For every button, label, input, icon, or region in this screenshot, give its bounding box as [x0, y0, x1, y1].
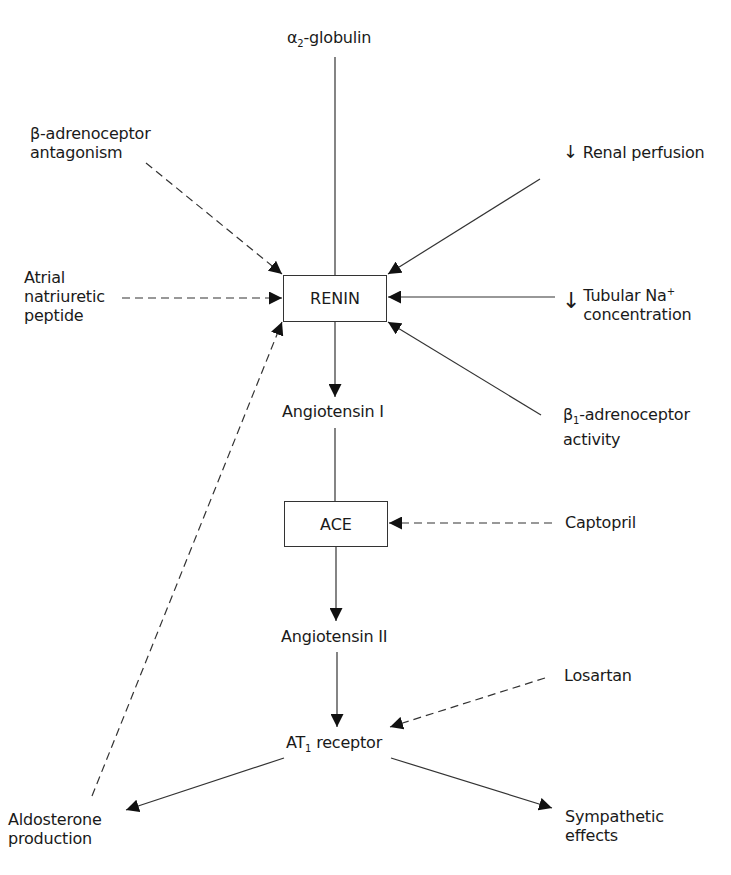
node-text: -globulin	[304, 28, 372, 47]
superscript: +	[667, 286, 675, 297]
beta-symbol: β	[563, 405, 573, 424]
node-text: RENIN	[310, 289, 360, 308]
node-atrial-natriuretic-peptide: Atrial natriuretic peptide	[24, 268, 105, 325]
edge-aldosterone-renin	[92, 322, 282, 796]
node-line: antagonism	[30, 143, 151, 162]
node-losartan: Losartan	[564, 666, 632, 685]
edge-renal-perfusion-renin	[388, 179, 540, 274]
node-text: Renal perfusion	[583, 143, 705, 162]
node-aldosterone-production: Aldosterone production	[8, 810, 102, 848]
node-text: Angiotensin II	[281, 627, 387, 646]
edge-beta1-renin	[388, 322, 541, 415]
node-line: β-adrenoceptor	[30, 124, 151, 143]
node-line: natriuretic	[24, 287, 105, 306]
down-arrow-icon: ↓	[563, 141, 578, 162]
node-text: receptor	[311, 733, 382, 752]
node-line: effects	[565, 826, 664, 845]
node-alpha2-globulin: α2-globulin	[287, 28, 371, 53]
ace-box: ACE	[284, 501, 388, 547]
node-tubular-na-concentration: ↓ Tubular Na+ concentration	[562, 282, 691, 324]
node-line: -adrenoceptor	[579, 405, 690, 424]
node-sympathetic-effects: Sympathetic effects	[565, 807, 664, 845]
node-at1-receptor: AT1 receptor	[286, 733, 382, 758]
edge-at1-aldosterone	[126, 758, 284, 810]
renin-box: RENIN	[283, 275, 387, 322]
node-line: activity	[563, 430, 690, 449]
node-beta1-adrenoceptor-activity: β1-adrenoceptor activity	[563, 405, 690, 449]
edge-at1-sympathetic	[391, 758, 552, 808]
node-text: ACE	[320, 515, 352, 534]
alpha-symbol: α	[287, 28, 297, 47]
down-arrow-icon: ↓	[562, 282, 580, 324]
node-angiotensin-2: Angiotensin II	[281, 627, 387, 646]
edge-beta-antagonism-renin	[146, 163, 282, 274]
node-text: Angiotensin I	[282, 402, 384, 421]
node-text: Losartan	[564, 666, 632, 685]
node-line: Sympathetic	[565, 807, 664, 826]
node-line: peptide	[24, 306, 105, 325]
node-text: AT	[286, 733, 305, 752]
node-captopril: Captopril	[565, 513, 636, 532]
node-line: Atrial	[24, 268, 105, 287]
node-angiotensin-1: Angiotensin I	[282, 402, 384, 421]
node-line: Tubular Na	[583, 286, 666, 305]
node-line: Aldosterone	[8, 810, 102, 829]
node-line: production	[8, 829, 102, 848]
node-text: Captopril	[565, 513, 636, 532]
node-line: concentration	[583, 305, 691, 324]
node-renal-perfusion: ↓ Renal perfusion	[563, 142, 705, 162]
edge-losartan-at1	[390, 678, 545, 727]
node-beta-adrenoceptor-antagonism: β-adrenoceptor antagonism	[30, 124, 151, 162]
